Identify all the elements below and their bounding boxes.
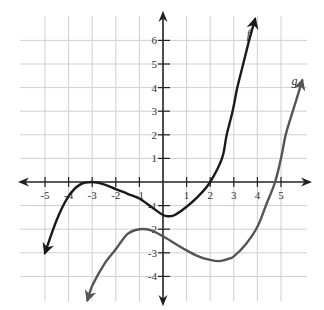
curve-label-g: g bbox=[292, 74, 298, 88]
graph-of-f-and-g: -5-4-3-2-112345-4-3-2-1123456 fg bbox=[0, 0, 324, 310]
x-tick-label: 5 bbox=[278, 189, 284, 201]
x-tick-label: -3 bbox=[88, 189, 98, 201]
y-tick-label: 3 bbox=[152, 105, 158, 117]
x-tick-label: 2 bbox=[207, 189, 213, 201]
curve-f bbox=[45, 19, 255, 253]
y-tick-label: 4 bbox=[152, 82, 158, 94]
y-tick-label: -4 bbox=[148, 270, 158, 282]
y-tick-label: 1 bbox=[152, 152, 158, 164]
x-tick-label: 4 bbox=[255, 189, 261, 201]
y-tick-label: 5 bbox=[152, 58, 158, 70]
x-tick-label: 1 bbox=[184, 189, 190, 201]
y-tick-label: -3 bbox=[148, 247, 158, 259]
x-tick-label: 3 bbox=[231, 189, 237, 201]
x-tick-label: -5 bbox=[40, 189, 50, 201]
curves: fg bbox=[45, 19, 302, 300]
y-tick-label: 2 bbox=[152, 129, 158, 141]
y-tick-label: 6 bbox=[152, 34, 158, 46]
